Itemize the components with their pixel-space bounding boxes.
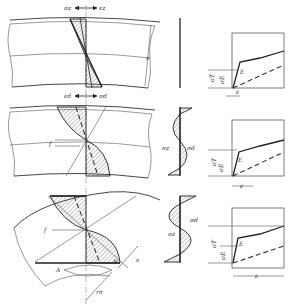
label-curve-e: E (239, 68, 245, 75)
label-offset-f-2: f (48, 140, 53, 148)
graph-frame-2 (232, 120, 284, 176)
residual-bottom-3 (164, 254, 180, 262)
label-residual-sz-2: σz (162, 144, 170, 151)
label-sigma-d: σd (99, 92, 107, 99)
beam-bottom-edge-2 (14, 173, 148, 178)
label-residual-sd-3: σd (190, 216, 198, 223)
label-sigma-e-2: σE (217, 163, 224, 172)
label-residual-sd-2: σd (187, 144, 195, 151)
pivot-top (85, 7, 88, 10)
plastic-stress-bottom (86, 140, 110, 176)
residual-lower-bulge-3 (180, 228, 191, 254)
label-curve-e-3: E (238, 240, 244, 247)
label-sigma-z-top: σz (64, 4, 72, 11)
stress-strain-graph-1: σT σE E ε (208, 33, 284, 96)
label-epsilon-z-top: εz (99, 4, 106, 11)
label-strain: ε (236, 88, 239, 95)
stress-strain-graph-2: σT σE E ε (208, 120, 284, 189)
graph-frame (232, 33, 284, 88)
row-plastic: f A B rn s σz σd σT σE E ε (14, 192, 284, 300)
label-radius-rn: rn (96, 288, 103, 295)
residual-lower-bulge-2 (180, 141, 187, 168)
label-thickness-s: s (136, 256, 139, 263)
curve-unloading-3 (233, 246, 284, 263)
row-elastic-plastic: f σz σd σT σE E ε (8, 105, 284, 189)
stress-strain-graph-3: σT σE E ε (208, 208, 284, 279)
label-sigma-e-3: σE (219, 251, 226, 260)
residual-upper-bulge-2 (173, 114, 180, 141)
label-sigma-t-2: σT (210, 157, 217, 166)
pivot-bottom (85, 95, 88, 98)
label-offset-f-3: f (43, 226, 48, 234)
bent-beam-outer (14, 192, 160, 228)
residual-stress-2: σz σd (162, 107, 195, 176)
label-strain-3: ε (255, 272, 258, 279)
beam-bottom-edge (12, 84, 148, 88)
label-strain-2: ε (240, 182, 243, 189)
label-epsilon-d: εd (64, 92, 71, 99)
label-sigma-e: σE (218, 75, 225, 84)
beam-mid-line (10, 53, 150, 58)
label-residual-sz-3: σz (168, 230, 176, 237)
beam-left-break (8, 24, 13, 87)
label-angle-a: A (55, 266, 61, 273)
residual-stress-3: σz σd (164, 196, 198, 263)
residual-top-2 (180, 108, 192, 114)
label-point-b: B (112, 258, 118, 265)
residual-upper-bulge-3 (169, 204, 180, 228)
residual-bottom-2 (168, 168, 180, 175)
label-sigma-t-3: σT (210, 239, 217, 248)
thickness-s-line (118, 246, 138, 268)
label-sigma-t: σT (208, 73, 215, 82)
row-elastic: σz εz εd σd s σT σE E ε (8, 4, 284, 304)
residual-top-3 (180, 196, 196, 204)
beam-left-break-2 (8, 112, 14, 176)
beam-right-break-2 (148, 114, 152, 178)
curved-beam-stress-diagram: σz εz εd σd s σT σE E ε (0, 0, 290, 307)
label-dimension-s: s (146, 54, 149, 61)
label-curve-e-2: E (237, 156, 243, 163)
